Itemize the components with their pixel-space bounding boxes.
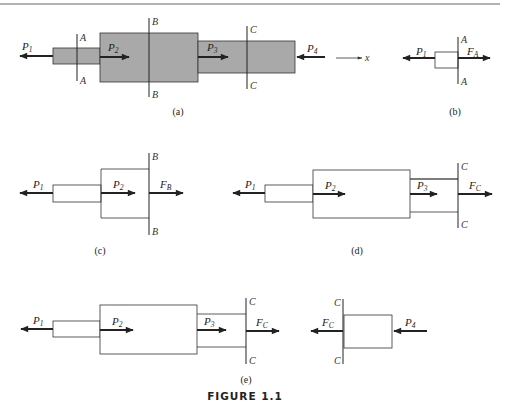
label-p2: P2 bbox=[112, 178, 124, 192]
caption-c: (c) bbox=[94, 245, 105, 257]
label-p1: P1 bbox=[32, 178, 43, 192]
caption-e: (e) bbox=[240, 374, 251, 386]
figure-1-1: P1 P2 P3 P4 x A A B B C C (a) P1 FA A A … bbox=[0, 0, 508, 416]
caption-d: (d) bbox=[351, 245, 363, 257]
section-label-a-bottom: A bbox=[79, 75, 87, 86]
fbd-segment-small bbox=[53, 321, 100, 337]
section-label-c-top: C bbox=[334, 297, 341, 308]
axis-label-x: x bbox=[364, 52, 370, 63]
label-p3: P3 bbox=[203, 315, 215, 329]
fbd-segment bbox=[344, 315, 392, 348]
fbd-segment bbox=[435, 52, 458, 68]
section-label-c-bottom: C bbox=[461, 219, 468, 230]
label-fb: FB bbox=[159, 178, 172, 192]
section-label-b-bottom: B bbox=[152, 226, 158, 237]
figure-canvas: P1 P2 P3 P4 x A A B B C C (a) P1 FA A A … bbox=[0, 0, 508, 416]
section-label-b-top: B bbox=[152, 16, 158, 27]
panel-e-right: FC P4 C C bbox=[311, 297, 427, 366]
section-label-c-bottom: C bbox=[250, 80, 257, 91]
fbd-segment-small bbox=[265, 185, 313, 202]
label-p1: P1 bbox=[21, 40, 32, 54]
panel-b: P1 FA A A (b) bbox=[403, 34, 490, 118]
caption-a: (a) bbox=[172, 106, 183, 118]
section-label-a-top: A bbox=[79, 32, 87, 43]
fbd-segment-small bbox=[53, 185, 101, 202]
caption-b: (b) bbox=[449, 106, 461, 118]
figure-title: FIGURE 1.1 bbox=[207, 390, 283, 402]
section-label-b-bottom: B bbox=[152, 89, 158, 100]
section-label-c-bottom: C bbox=[249, 355, 256, 366]
label-fc: FC bbox=[321, 316, 335, 330]
panel-a: P1 P2 P3 P4 x A A B B C C (a) bbox=[20, 16, 370, 118]
section-label-c-top: C bbox=[249, 296, 256, 307]
label-p1: P1 bbox=[244, 178, 255, 192]
panel-e-left: P1 P2 P3 FC C C bbox=[21, 296, 279, 366]
section-label-c-top: C bbox=[461, 161, 468, 172]
label-fa: FA bbox=[466, 45, 479, 59]
label-p3: P3 bbox=[416, 179, 428, 193]
label-p4: P4 bbox=[306, 42, 318, 56]
panel-c: P1 P2 FB B B (c) bbox=[20, 151, 183, 257]
label-fc: FC bbox=[468, 179, 482, 193]
section-label-c-top: C bbox=[250, 24, 257, 35]
panel-d: P1 P2 P3 FC C C (d) bbox=[233, 161, 492, 257]
label-p1: P1 bbox=[32, 314, 43, 328]
label-fc: FC bbox=[255, 316, 269, 330]
section-label-a-bottom: A bbox=[460, 76, 468, 87]
section-label-b-top: B bbox=[152, 151, 158, 162]
section-label-c-bottom: C bbox=[334, 355, 341, 366]
section-label-a-top: A bbox=[460, 34, 468, 45]
label-p1: P1 bbox=[415, 45, 426, 59]
label-p4: P4 bbox=[404, 316, 416, 330]
